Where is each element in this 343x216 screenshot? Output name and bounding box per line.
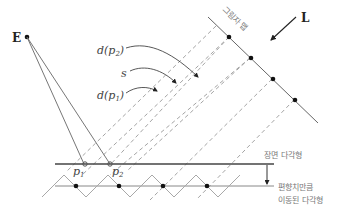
shadow-map-label: 그림자 맵 <box>221 4 250 32</box>
light-ray <box>110 58 250 175</box>
p1-label: p1 <box>73 165 85 179</box>
offset-sample <box>117 184 122 189</box>
view-ray-p1 <box>27 37 84 164</box>
callout-s <box>130 68 176 83</box>
light-ray <box>128 58 250 170</box>
shadow-map-sample <box>227 35 232 40</box>
light-ray <box>66 26 216 172</box>
d-p1-label: d(p1) <box>97 89 124 103</box>
shadow-map-sample <box>293 98 298 103</box>
offset-sample <box>205 184 210 189</box>
shadow-map-sample <box>249 56 254 61</box>
light-label: L <box>301 11 310 25</box>
offset-sample <box>161 184 166 189</box>
eye-label: E <box>12 31 21 45</box>
shadow-map-sample <box>271 77 276 82</box>
offset-polygon-label-line1: 편향치만큼 <box>278 182 313 192</box>
light-ray <box>150 79 272 200</box>
light-ray <box>110 37 229 165</box>
p2-label: p2 <box>112 165 124 179</box>
light-direction-arrow <box>271 17 296 40</box>
scene-polygon-label: 장면 다각형 <box>264 150 302 160</box>
callout-d-p1 <box>126 87 157 93</box>
s-label: s <box>121 67 127 80</box>
offset-sample <box>74 184 79 189</box>
shadow-bias-diagram: 그림자 맵 L E p1 p2 d(p2) s d(p1) 장면 다각형 편향치… <box>0 0 343 216</box>
offset-polygon-label-line2: 이동된 다각형 <box>278 195 323 205</box>
d-p2-label: d(p2) <box>97 44 124 58</box>
shadow-map-line <box>208 17 318 123</box>
